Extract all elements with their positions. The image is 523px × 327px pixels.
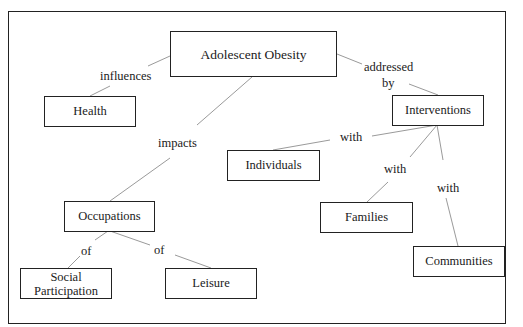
- edge-label-impacts: impacts: [157, 137, 198, 150]
- node-label: Social Participation: [26, 270, 106, 298]
- node-social-participation: Social Participation: [20, 268, 112, 299]
- node-families: Families: [320, 202, 413, 233]
- node-label: Individuals: [245, 159, 301, 172]
- edge-label-with-individuals: with: [339, 131, 363, 144]
- node-label: Communities: [425, 255, 492, 268]
- edge-label-of-leisure: of: [153, 244, 165, 257]
- node-label: Adolescent Obesity: [200, 48, 306, 61]
- node-health: Health: [44, 96, 136, 127]
- node-label: Occupations: [78, 210, 140, 223]
- node-occupations: Occupations: [64, 201, 155, 232]
- node-label: Families: [345, 211, 388, 224]
- edge-label-addressed: addressed: [363, 61, 414, 74]
- node-label: Leisure: [192, 277, 229, 290]
- edge-label-influences: influences: [99, 70, 152, 83]
- node-adolescent-obesity: Adolescent Obesity: [170, 31, 337, 77]
- node-communities: Communities: [413, 246, 505, 277]
- edge-label-with-families: with: [383, 163, 407, 176]
- node-leisure: Leisure: [165, 268, 257, 299]
- node-individuals: Individuals: [227, 150, 320, 181]
- node-label: Interventions: [405, 104, 471, 117]
- edge-label-by: by: [381, 77, 396, 90]
- node-interventions: Interventions: [392, 95, 484, 126]
- edge-label-of-social: of: [80, 245, 92, 258]
- node-label: Health: [73, 105, 106, 118]
- edge-label-with-communities: with: [436, 182, 460, 195]
